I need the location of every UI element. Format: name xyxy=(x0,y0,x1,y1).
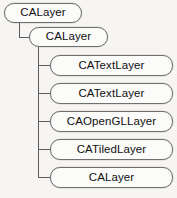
connector-child-1 xyxy=(38,65,50,66)
connector-child-3 xyxy=(38,121,50,122)
connector-child-4 xyxy=(38,149,50,150)
layer-hierarchy-diagram: CALayer CALayer CATextLayer CATextLayer … xyxy=(0,0,177,198)
node-child-catextlayer-2[interactable]: CATextLayer xyxy=(50,83,173,104)
node-level2-calayer-label: CALayer xyxy=(46,31,91,43)
node-level2-calayer[interactable]: CALayer xyxy=(29,27,108,47)
node-child-catextlayer-2-label: CATextLayer xyxy=(78,87,144,99)
node-child-catiledlayer-label: CATiledLayer xyxy=(77,143,147,155)
node-child-caopengllayer[interactable]: CAOpenGLLayer xyxy=(50,111,173,132)
node-child-catiledlayer[interactable]: CATiledLayer xyxy=(50,139,173,160)
connector-children-trunk xyxy=(38,47,39,177)
node-child-catextlayer-1-label: CATextLayer xyxy=(78,59,144,71)
node-root-calayer-label: CALayer xyxy=(20,7,65,19)
connector-child-2 xyxy=(38,93,50,94)
connector-child-5 xyxy=(38,177,50,178)
node-child-caopengllayer-label: CAOpenGLLayer xyxy=(67,115,157,127)
node-root-calayer[interactable]: CALayer xyxy=(4,3,82,23)
connector-root-vertical xyxy=(19,23,20,37)
node-child-calayer[interactable]: CALayer xyxy=(50,167,173,188)
node-child-catextlayer-1[interactable]: CATextLayer xyxy=(50,55,173,76)
node-child-calayer-label: CALayer xyxy=(89,171,134,183)
